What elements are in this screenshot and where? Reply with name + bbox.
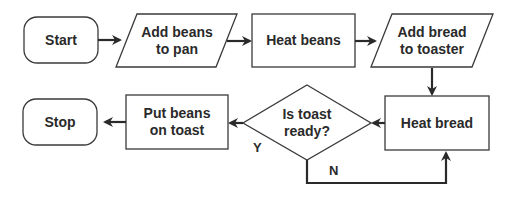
start-node: Start: [24, 17, 98, 63]
stop-node: Stop: [23, 99, 97, 145]
add-bread-node: Add bread to toaster: [381, 14, 483, 67]
put-beans-node: Put beans on toast: [126, 95, 228, 149]
heat-bread-node: Heat bread: [385, 96, 489, 150]
add-beans-node: Add beans to pan: [126, 14, 228, 67]
yes-edge-label: Y: [253, 140, 262, 155]
heat-beans-node: Heat beans: [252, 14, 355, 67]
no-edge-label: N: [329, 163, 338, 178]
is-ready-decision-node: Is toast ready?: [262, 100, 352, 146]
edge-is-ready-no-to-heat-bread: [307, 153, 446, 183]
